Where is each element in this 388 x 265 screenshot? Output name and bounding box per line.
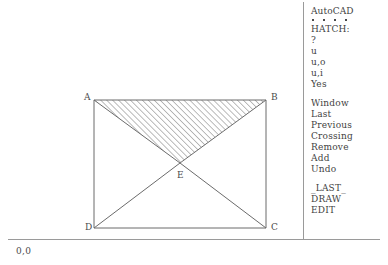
menu-item-previous[interactable]: Previous (311, 120, 385, 131)
menu-item-edit[interactable]: EDIT (311, 205, 385, 216)
menu-item-remove[interactable]: Remove (311, 142, 385, 153)
status-bar-divider (8, 239, 380, 240)
origin-coordinate-label: 0,0 (16, 246, 31, 256)
screen-menu-title[interactable]: AutoCAD (311, 6, 385, 17)
menu-item-draw[interactable]: DRAW (311, 194, 385, 205)
menu-item-pattern-u[interactable]: u (311, 46, 385, 57)
menu-item-pattern-u-inner[interactable]: u,i (311, 68, 385, 79)
menu-dot-1 (312, 19, 314, 21)
edge-d-to-e[interactable] (94, 163, 180, 228)
menu-group-spacer-1 (311, 90, 385, 98)
menu-dot-2 (323, 19, 325, 21)
edge-c-to-e[interactable] (180, 163, 266, 228)
menu-dot-4 (345, 19, 347, 21)
screen-menu-header: HATCH: (311, 24, 385, 35)
menu-item-last[interactable]: Last (311, 109, 385, 120)
hatch-fill-region (94, 100, 266, 163)
drawing-canvas[interactable] (0, 0, 303, 239)
menu-item-add[interactable]: Add (311, 153, 385, 164)
vertex-label-d: D (85, 222, 92, 232)
menu-group-spacer-2 (311, 175, 385, 183)
vertex-label-c: C (271, 222, 278, 232)
menu-dot-3 (334, 19, 336, 21)
drawing-area[interactable]: A B C D E (0, 0, 303, 239)
menu-item-yes[interactable]: Yes (311, 79, 385, 90)
vertex-label-e: E (177, 170, 184, 180)
menu-item-crossing[interactable]: Crossing (311, 131, 385, 142)
menu-item-help[interactable]: ? (311, 35, 385, 46)
vertex-label-a: A (84, 92, 91, 102)
menu-divider (303, 2, 304, 239)
menu-item-window[interactable]: Window (311, 98, 385, 109)
autocad-window: A B C D E 0,0 AutoCAD HATCH: ? u u,o u,i… (0, 0, 388, 265)
vertex-label-b: B (271, 92, 278, 102)
menu-separator-dots (311, 17, 385, 24)
menu-item-pattern-u-outer[interactable]: u,o (311, 57, 385, 68)
menu-item-last-menu[interactable]: _LAST_ (311, 183, 385, 194)
menu-item-undo[interactable]: Undo (311, 164, 385, 175)
screen-menu[interactable]: AutoCAD HATCH: ? u u,o u,i Yes Window La… (311, 6, 385, 216)
